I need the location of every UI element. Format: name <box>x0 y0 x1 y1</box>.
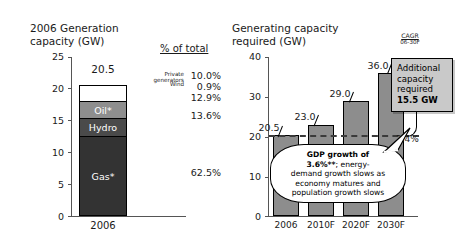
pct-value-wind: 0.9% <box>187 81 221 92</box>
right-tick <box>265 216 268 217</box>
segment-label-hydro: Hydro <box>89 122 117 133</box>
left-y-tick-label: 20 <box>46 83 64 94</box>
bubble-tail-icon <box>380 126 416 156</box>
pct-value-private-generators: 10.0% <box>187 70 221 81</box>
bubble-line-4: economy matures and <box>279 179 397 189</box>
callout-line-2: capacity <box>397 74 447 85</box>
callout-value: 15.5 GW <box>397 95 447 106</box>
right-tick <box>265 177 268 178</box>
segment-label-gas: Gas* <box>92 171 115 182</box>
pct-row-wind: Wind 0.9% <box>143 81 221 92</box>
left-plot-area: 25 20 15 10 5 0 Oil* Hydro Gas* 20.5 200… <box>0 0 228 242</box>
left-tick <box>68 57 71 58</box>
right-y-tick-label: 40 <box>243 51 261 62</box>
pct-name-wind: Wind <box>170 81 184 87</box>
x-category-2020F: 2020F <box>340 220 372 230</box>
bubble-line-5: population growth slows <box>279 188 397 198</box>
left-x-axis <box>71 216 186 217</box>
callout-line-3: required <box>397 84 447 95</box>
left-tick <box>68 184 71 185</box>
stack-segment-gas[interactable]: Gas* <box>79 136 127 216</box>
cagr-heading: CAGR 06-30F <box>386 33 434 46</box>
bubble-line-2: 3.6%**; energy- <box>279 160 397 170</box>
pct-row-hydro: 13.6% <box>143 110 221 121</box>
cagr-period: 06-30F <box>386 39 434 45</box>
left-chart-panel: 2006 Generation capacity (GW) % of total… <box>0 0 228 242</box>
pct-value-gas: 62.5% <box>187 167 221 178</box>
left-y-tick-label: 5 <box>46 179 64 190</box>
left-tick <box>68 216 71 217</box>
right-x-axis <box>268 216 418 217</box>
left-y-tick-label: 10 <box>46 147 64 158</box>
stack-segment-oil[interactable]: Oil* <box>79 101 127 118</box>
right-tick <box>265 137 268 138</box>
x-category-2030F: 2030F <box>375 220 407 230</box>
x-category-2010F: 2010F <box>305 220 337 230</box>
right-y-tick-label: 10 <box>243 171 261 182</box>
pct-row-oil: 12.9% <box>143 92 221 103</box>
segment-label-oil: Oil* <box>94 105 112 116</box>
pct-value-hydro: 13.6% <box>187 110 221 121</box>
left-y-tick-label: 15 <box>46 115 64 126</box>
right-plot-area: 40 30 20 10 0 20.5 23.0 29.0 36.0 2006 2… <box>228 0 459 242</box>
left-y-axis <box>71 57 72 216</box>
left-tick <box>68 152 71 153</box>
right-tick <box>265 57 268 58</box>
left-tick <box>68 120 71 121</box>
left-x-category-label: 2006 <box>79 220 127 231</box>
stack-segment-private-wind[interactable] <box>79 85 127 101</box>
right-tick <box>265 97 268 98</box>
pct-value-oil: 12.9% <box>187 92 221 103</box>
left-bar-total-label: 20.5 <box>72 63 134 75</box>
pct-row-gas: 62.5% <box>143 167 221 178</box>
left-y-tick-label: 0 <box>46 211 64 222</box>
bubble-line-1-text: GDP growth of <box>307 150 369 159</box>
bubble-gdp-rate: 3.6%** <box>306 160 335 169</box>
callout-line-1: Additional <box>397 63 447 74</box>
bubble-line-2-tail: ; energy- <box>335 160 369 169</box>
right-y-tick-label: 30 <box>243 91 261 102</box>
right-y-tick-label: 0 <box>243 211 261 222</box>
left-tick <box>68 88 71 89</box>
left-y-tick-label: 25 <box>46 51 64 62</box>
bubble-line-3: demand growth slows as <box>279 169 397 179</box>
x-category-2006: 2006 <box>270 220 302 230</box>
right-chart-panel: Generating capacity required (GW) 40 30 … <box>228 0 459 242</box>
stack-segment-hydro[interactable]: Hydro <box>79 118 127 136</box>
additional-capacity-callout: Additional capacity required 15.5 GW <box>391 58 453 112</box>
